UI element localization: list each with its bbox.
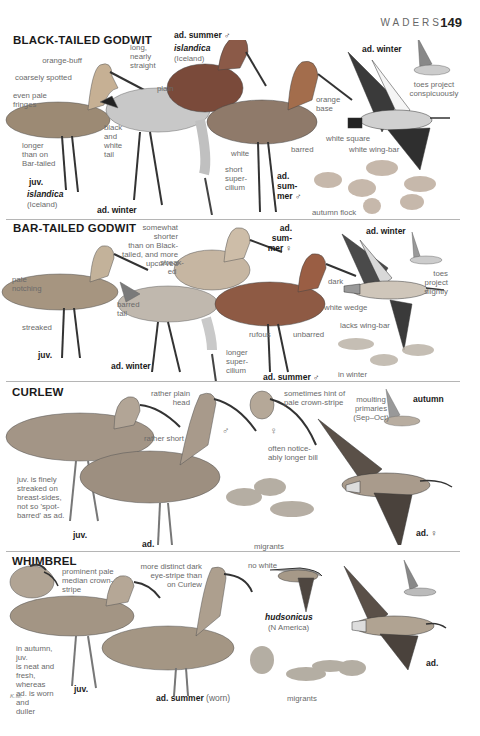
plate-label-curlew-ad-female: ad. ♀ xyxy=(416,528,437,538)
annotation-white-square: white square xyxy=(326,134,370,143)
annotation-toes-project-conspicuously: toes project conspicuously xyxy=(404,80,464,98)
annotation-barred: barred xyxy=(291,145,314,154)
annotation-autumn-flock: autumn flock xyxy=(312,208,356,217)
annotation-white-wing-bar: white wing-bar xyxy=(349,145,399,154)
bird-whimbrel-hudsonicus xyxy=(270,568,322,612)
plate-label-age: ad. summer xyxy=(156,693,204,703)
race-label-bt-juv-islandica: islandica xyxy=(27,189,63,199)
race-label-hudsonicus: hudsonicus xyxy=(265,612,313,622)
page-number: 149 xyxy=(440,15,462,30)
plate-label-whimbrel-juv: juv. xyxy=(74,684,88,694)
plate-label-bt-ad-winter-flight: ad. winter xyxy=(362,44,402,54)
annotation-longer-supercilium: longer super- cilium xyxy=(226,348,256,375)
annotation-dark: dark xyxy=(328,277,343,286)
annotation-streaked: streaked xyxy=(22,323,52,332)
bird-bar-flight-small xyxy=(410,232,442,264)
annotation-white: white xyxy=(231,149,249,158)
sex-symbol-female: ♀ xyxy=(270,426,278,435)
bird-curlew-migrants xyxy=(226,478,314,517)
bird-bt-autumn-flock xyxy=(314,160,436,214)
annotation-longer-than-bar-tailed: longer than on Bar-tailed xyxy=(22,141,62,168)
annotation-short-supercilium: short super- cilium xyxy=(225,165,255,192)
annotation-pale-notching: pale notching xyxy=(12,275,52,293)
section-title: WADERS xyxy=(380,17,442,28)
plate-label-bt-ad-summer-male-2: ad. sum- mer ♂ xyxy=(277,171,307,201)
section-divider xyxy=(6,381,460,382)
bird-bar-in-winter xyxy=(338,338,434,366)
plate-label-bt-ad-winter: ad. winter xyxy=(97,205,137,215)
annotation-lacks-wing-bar: lacks wing-bar xyxy=(340,321,390,330)
annotation-often-longer-bill: often notice- ably longer bill xyxy=(268,444,338,462)
race-sublabel-bt-juv-iceland: (Iceland) xyxy=(27,200,57,209)
plate-label-bar-juv: juv. xyxy=(38,350,52,360)
plate-label-whimbrel-ad: ad. xyxy=(426,658,438,668)
plate-label-curlew-juv: juv. xyxy=(73,530,87,540)
plate-label-bar-ad-winter: ad. winter xyxy=(111,361,151,371)
annotation-white-wedge: white wedge xyxy=(324,303,367,312)
annotation-more-distinct-eye-stripe: more distinct dark eye-stripe than on Cu… xyxy=(140,562,202,589)
race-sublabel-bt-iceland: (Iceland) xyxy=(174,54,204,63)
race-label-bt-islandica: islandica xyxy=(174,43,210,53)
annotation-even-pale-fringes: even pale fringes xyxy=(13,91,53,109)
plate-label-bar-ad-summer-female: ad. sum- mer ♀ xyxy=(262,223,292,253)
bird-whimbrel-migrants xyxy=(250,646,366,681)
section-divider xyxy=(6,551,460,552)
annotation-plain: plain xyxy=(157,84,173,93)
annotation-barred-tail: barred tail xyxy=(117,300,147,318)
annotation-moulting-primaries: moulting primaries (Sep–Oct) xyxy=(353,395,389,422)
race-sublabel-n-america: (N America) xyxy=(268,623,309,632)
annotation-orange-buff: orange-buff xyxy=(40,56,82,65)
annotation-streaked-2: streak- ed xyxy=(160,258,184,276)
annotation-coarsely-spotted: coarsely spotted xyxy=(15,73,85,82)
annotation-black-white-tail: black and white tail xyxy=(104,123,129,159)
annotation-rather-short: rather short xyxy=(144,434,184,443)
annotation-curlew-migrants: migrants xyxy=(254,542,284,551)
annotation-prominent-pale-crown-stripe: prominent pale median crown- stripe xyxy=(62,567,118,594)
bird-whimbrel-flight-small xyxy=(404,560,436,596)
annotation-juv-finely-streaked: juv. is finely streaked on breast-sides,… xyxy=(17,475,77,520)
annotation-sometimes-pale-crown-stripe: sometimes hint of pale crown-stripe xyxy=(284,389,364,407)
bird-whimbrel-flight xyxy=(344,566,446,670)
annotation-whimbrel-migrants: migrants xyxy=(287,694,317,703)
plate-label-curlew-autumn: autumn xyxy=(413,394,444,404)
plate-label-bt-ad-summer-male: ad. summer ♂ xyxy=(174,30,230,40)
curlew-illustrations xyxy=(0,385,480,545)
annotation-toes-project-slightly: toes project slightly xyxy=(412,269,448,296)
annotation-unbarred: unbarred xyxy=(293,330,324,339)
bird-bt-flight-small xyxy=(414,40,450,75)
annotation-rufous: rufous xyxy=(249,330,271,339)
section-divider xyxy=(6,219,460,220)
plate-label-whimbrel-ad-summer: ad. summer (worn) xyxy=(156,693,230,703)
annotation-rather-plain-head: rather plain head xyxy=(150,389,190,407)
sex-symbol-male: ♂ xyxy=(222,426,230,435)
annotation-long-nearly-straight: long, nearly straight xyxy=(130,43,160,70)
bird-whimbrel-head xyxy=(10,565,58,598)
bird-curlew-flight xyxy=(318,419,452,545)
plate-label-note-worn: (worn) xyxy=(206,693,230,703)
plate-label-curlew-ad: ad. xyxy=(142,539,154,549)
annotation-no-white: no white xyxy=(248,561,277,570)
annotation-orange-base: orange base xyxy=(316,95,346,113)
plate-label-bt-juv: juv. xyxy=(29,177,43,187)
plate-label-bar-ad-winter-flight: ad. winter xyxy=(366,226,406,236)
annotation-in-winter: in winter xyxy=(338,370,367,379)
annotation-in-autumn-juv-neat: in autumn, juv. is neat and fresh, where… xyxy=(16,644,66,716)
artist-signature: K.M. xyxy=(10,693,22,699)
